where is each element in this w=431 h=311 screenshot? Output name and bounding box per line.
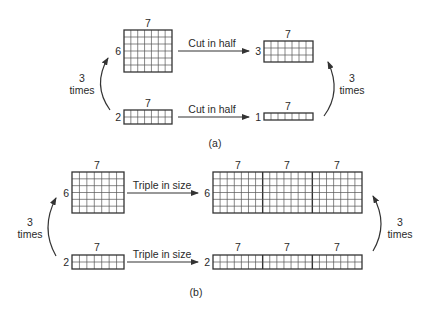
a-top-arrow-label: Cut in half bbox=[188, 38, 235, 49]
b-bottom-left-row-label: 2 bbox=[63, 257, 69, 268]
curve-arrow-b-left bbox=[48, 198, 56, 256]
b-top-right-row-label: 6 bbox=[204, 188, 210, 199]
grid-b-2x7 bbox=[72, 255, 124, 269]
a-top-right-row-label: 3 bbox=[255, 46, 261, 57]
b-top-arrow-label: Triple in size bbox=[133, 180, 192, 191]
b-left-curve-line2: times bbox=[17, 228, 42, 240]
b-right-curve-line2: times bbox=[387, 228, 412, 240]
a-bottom-arrow-label: Cut in half bbox=[188, 104, 235, 115]
grid-b-6x21 bbox=[213, 172, 362, 213]
b-bottom-arrow-label: Triple in size bbox=[133, 249, 192, 260]
a-left-curve-line2: times bbox=[69, 84, 94, 96]
a-top-left-col-label: 7 bbox=[145, 18, 151, 29]
b-bottom-left-col-label: 7 bbox=[94, 242, 100, 253]
a-right-curve-line1: 3 bbox=[339, 72, 364, 84]
grid-a-6x7 bbox=[124, 30, 172, 72]
a-right-curve-line2: times bbox=[339, 84, 364, 96]
b-right-curve-line1: 3 bbox=[387, 216, 412, 228]
b-bottom-right-row-label: 2 bbox=[204, 257, 210, 268]
a-top-right-col-label: 7 bbox=[285, 29, 291, 40]
curve-arrow-b-right bbox=[373, 196, 381, 251]
b-right-curve-label: 3 times bbox=[387, 216, 412, 240]
b-bottom-right-col-label-3: 7 bbox=[334, 242, 340, 253]
b-top-left-col-label: 7 bbox=[94, 160, 100, 171]
b-top-right-col-label-3: 7 bbox=[334, 160, 340, 171]
a-caption: (a) bbox=[209, 138, 222, 149]
a-left-curve-label: 3 times bbox=[69, 72, 94, 96]
curve-arrow-a-right bbox=[324, 62, 334, 116]
b-top-left-row-label: 6 bbox=[63, 188, 69, 199]
b-bottom-right-col-label-1: 7 bbox=[235, 242, 241, 253]
b-top-right-col-label-2: 7 bbox=[284, 160, 290, 171]
a-bottom-right-col-label: 7 bbox=[285, 101, 291, 112]
grid-a-2x7 bbox=[124, 110, 172, 124]
grid-b-6x7 bbox=[72, 172, 124, 213]
a-bottom-left-row-label: 2 bbox=[115, 112, 121, 123]
a-top-left-row-label: 6 bbox=[115, 46, 121, 57]
grid-a-3x7 bbox=[264, 41, 313, 62]
a-right-curve-label: 3 times bbox=[339, 72, 364, 96]
diagram-canvas: 7 6 Cut in half 3 7 7 2 Cut in half 1 7 … bbox=[0, 0, 431, 311]
grid-b-2x21 bbox=[213, 255, 362, 269]
grid-a-1x7 bbox=[264, 113, 313, 120]
a-bottom-left-col-label: 7 bbox=[145, 98, 151, 109]
b-left-curve-line1: 3 bbox=[17, 216, 42, 228]
b-left-curve-label: 3 times bbox=[17, 216, 42, 240]
b-bottom-right-col-label-2: 7 bbox=[284, 242, 290, 253]
b-caption: (b) bbox=[190, 287, 203, 298]
b-top-right-col-label-1: 7 bbox=[235, 160, 241, 171]
a-bottom-right-row-label: 1 bbox=[255, 112, 261, 123]
curve-arrow-a-left bbox=[100, 58, 110, 110]
a-left-curve-line1: 3 bbox=[69, 72, 94, 84]
